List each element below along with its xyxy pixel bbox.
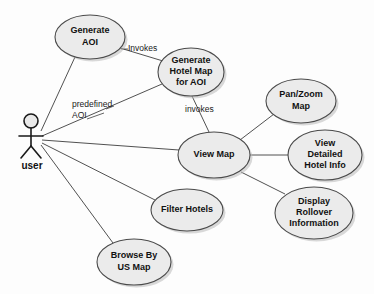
actor-label: user bbox=[21, 160, 42, 171]
use-case-generate-aoi[interactable]: Generate AOI bbox=[55, 15, 128, 62]
use-case-pan-zoom-map[interactable]: Pan/Zoom Map bbox=[266, 79, 339, 126]
use-case-browse-by-us-map[interactable]: Browse By US Map bbox=[97, 239, 174, 288]
use-case-label-line1: Generate bbox=[70, 25, 109, 35]
use-case-label-line2: Detailed bbox=[307, 149, 342, 159]
use-case-diagram: Generate AOI Generate Hotel Map for AOI … bbox=[0, 0, 374, 294]
use-case-label-line3: Information bbox=[289, 218, 339, 228]
association-user-to-view-map[interactable] bbox=[42, 140, 179, 150]
actor-user[interactable]: user bbox=[19, 114, 43, 171]
leader-aoi bbox=[87, 113, 104, 119]
use-case-label-line3: Hotel Info bbox=[304, 160, 346, 170]
use-case-label-line1: View Map bbox=[194, 149, 235, 159]
association-user-to-generate-aoi[interactable] bbox=[41, 57, 75, 131]
use-case-filter-hotels[interactable]: Filter Hotels bbox=[151, 189, 226, 234]
association-view-map-to-display-rollover-information[interactable] bbox=[241, 172, 285, 194]
use-case-label-line2: US Map bbox=[117, 262, 151, 272]
edge-label-invokes-lower: invokes bbox=[185, 104, 214, 114]
edge-label-predefined-line1: predefined bbox=[72, 99, 112, 109]
actor-left-leg bbox=[21, 146, 31, 158]
edge-label-invokes-upper: Invokes bbox=[128, 43, 157, 53]
association-view-map-to-pan-zoom-map[interactable] bbox=[240, 114, 274, 140]
use-case-generate-hotel-map-for-aoi[interactable]: Generate Hotel Map for AOI bbox=[158, 48, 227, 99]
use-case-label-line2: AOI bbox=[82, 37, 98, 47]
actor-head-icon bbox=[24, 114, 38, 128]
use-case-label-line3: for AOI bbox=[176, 77, 206, 87]
use-case-label-line1: Browse By bbox=[111, 250, 158, 260]
use-case-label-line1: Filter Hotels bbox=[161, 204, 213, 214]
use-case-display-rollover-information[interactable]: Display Rollover Information bbox=[275, 187, 356, 242]
use-case-label-line1: Display bbox=[298, 196, 330, 206]
use-case-label-line1: View bbox=[315, 138, 336, 148]
use-case-label-line2: Map bbox=[292, 101, 311, 111]
use-case-label-line1: Pan/Zoom bbox=[279, 89, 323, 99]
diagram-canvas: Generate AOI Generate Hotel Map for AOI … bbox=[0, 0, 374, 294]
association-user-to-generate-hotel-map[interactable] bbox=[42, 84, 162, 136]
use-case-label-line2: Rollover bbox=[296, 207, 333, 217]
use-case-label-line2: Hotel Map bbox=[169, 66, 213, 76]
actor-right-leg bbox=[31, 146, 41, 158]
association-user-to-browse-by-us-map[interactable] bbox=[41, 145, 113, 243]
use-case-view-detailed-hotel-info[interactable]: View Detailed Hotel Info bbox=[288, 130, 365, 183]
edge-label-predefined-line2: AOI bbox=[72, 110, 87, 120]
use-case-label-line1: Generate bbox=[171, 55, 210, 65]
association-user-to-filter-hotels[interactable] bbox=[42, 143, 155, 200]
